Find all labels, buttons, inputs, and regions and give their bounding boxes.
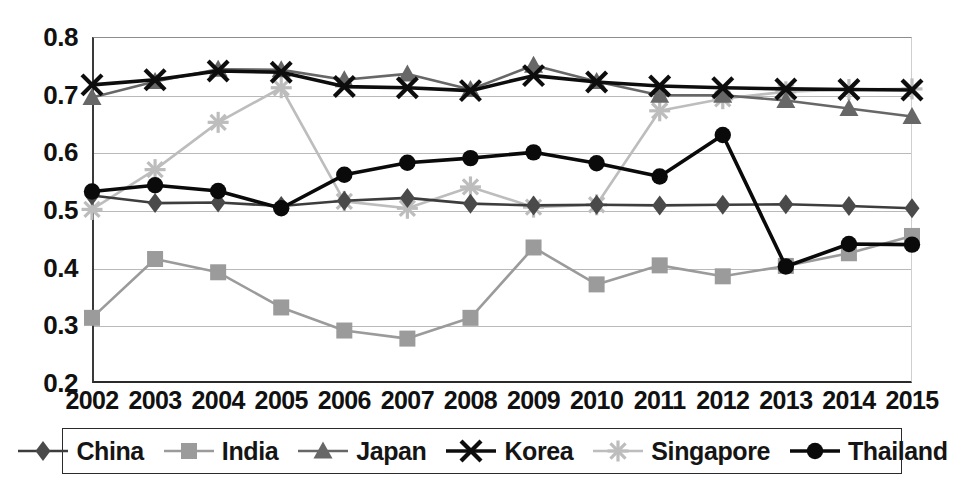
data-point-square-marker bbox=[147, 251, 163, 267]
x-axis-tick-label: 2004 bbox=[192, 386, 245, 415]
y-axis-tick-label: 0.6 bbox=[43, 137, 78, 168]
legend-item-singapore[interactable]: Singapore bbox=[582, 437, 779, 466]
data-point-asterisk-marker bbox=[208, 112, 229, 133]
legend-marker-asterisk-icon bbox=[591, 438, 645, 464]
legend-label: Thailand bbox=[848, 437, 948, 466]
data-point-square-marker bbox=[210, 264, 226, 280]
data-point-diamond-marker bbox=[778, 194, 793, 214]
series-singapore bbox=[82, 77, 923, 220]
legend-marker-cross-icon bbox=[444, 438, 498, 464]
x-axis-tick-label: 2013 bbox=[759, 386, 812, 415]
data-point-circle-marker bbox=[84, 183, 100, 199]
legend-label: Korea bbox=[504, 437, 573, 466]
legend-marker-diamond-icon bbox=[16, 438, 70, 464]
data-point-circle-marker bbox=[399, 155, 415, 171]
data-point-circle-marker bbox=[147, 177, 163, 193]
data-point-diamond-marker bbox=[715, 195, 730, 215]
series-india bbox=[84, 228, 920, 347]
x-axis-tick-labels: 2002200320042005200620072008200920102011… bbox=[0, 386, 962, 420]
data-point-asterisk-marker bbox=[608, 441, 629, 462]
data-point-circle-marker bbox=[588, 155, 604, 171]
data-point-diamond-marker bbox=[841, 196, 856, 216]
data-point-circle-marker bbox=[462, 150, 478, 166]
data-point-square-marker bbox=[336, 323, 352, 339]
data-point-square-marker bbox=[715, 268, 731, 284]
y-axis-tick-labels: 0.80.70.60.50.40.30.2 bbox=[0, 0, 86, 420]
x-axis-tick-label: 2011 bbox=[634, 386, 686, 415]
x-axis-tick-label: 2003 bbox=[128, 386, 181, 415]
y-axis-tick-label: 0.7 bbox=[43, 79, 78, 110]
series-layer bbox=[92, 37, 912, 383]
series-line bbox=[92, 236, 912, 339]
data-point-asterisk-marker bbox=[649, 100, 670, 121]
data-point-diamond-marker bbox=[652, 195, 667, 215]
legend-item-korea[interactable]: Korea bbox=[435, 437, 582, 466]
x-axis-tick-label: 2010 bbox=[570, 386, 623, 415]
data-point-asterisk-marker bbox=[145, 159, 166, 180]
series-korea bbox=[82, 61, 922, 101]
y-axis-tick-label: 0.8 bbox=[43, 22, 78, 53]
legend-label: Japan bbox=[356, 437, 426, 466]
x-axis-tick-label: 2005 bbox=[255, 386, 308, 415]
data-point-diamond-marker bbox=[905, 198, 920, 218]
legend-item-china[interactable]: China bbox=[7, 437, 152, 466]
data-point-circle-marker bbox=[778, 258, 794, 274]
data-point-diamond-marker bbox=[36, 441, 51, 461]
data-point-diamond-marker bbox=[148, 193, 163, 213]
chart-legend: ChinaIndiaJapanKoreaSingaporeThailand bbox=[62, 428, 902, 474]
legend-label: China bbox=[76, 437, 143, 466]
data-point-square-marker bbox=[399, 331, 415, 347]
legend-marker-circle-icon bbox=[788, 438, 842, 464]
data-point-circle-marker bbox=[336, 167, 352, 183]
legend-marker-triangle-icon bbox=[296, 438, 350, 464]
data-point-circle-marker bbox=[651, 168, 667, 184]
x-axis-tick-label: 2007 bbox=[381, 386, 434, 415]
data-point-square-marker bbox=[181, 443, 197, 459]
data-point-circle-marker bbox=[525, 144, 541, 160]
series-thailand bbox=[84, 127, 920, 275]
x-axis-tick-label: 2008 bbox=[444, 386, 497, 415]
data-point-square-marker bbox=[462, 310, 478, 326]
data-point-square-marker bbox=[526, 239, 542, 255]
legend-marker-square-icon bbox=[162, 438, 216, 464]
legend-label: Singapore bbox=[651, 437, 770, 466]
data-point-square-marker bbox=[273, 299, 289, 315]
data-point-circle-marker bbox=[715, 127, 731, 143]
data-point-circle-marker bbox=[210, 183, 226, 199]
data-point-circle-marker bbox=[807, 443, 823, 459]
data-point-diamond-marker bbox=[463, 194, 478, 214]
data-point-square-marker bbox=[84, 310, 100, 326]
y-axis-tick-label: 0.3 bbox=[43, 310, 78, 341]
x-axis-tick-label: 2012 bbox=[696, 386, 749, 415]
plot-wrapper: 0.80.70.60.50.40.30.2 200220032004200520… bbox=[0, 0, 962, 420]
line-chart: 0.80.70.60.50.40.30.2 200220032004200520… bbox=[0, 0, 962, 501]
data-point-circle-marker bbox=[904, 236, 920, 252]
x-axis-tick-label: 2009 bbox=[507, 386, 560, 415]
x-axis-tick-label: 2002 bbox=[65, 386, 118, 415]
legend-item-japan[interactable]: Japan bbox=[287, 437, 435, 466]
y-axis-tick-label: 0.4 bbox=[43, 252, 78, 283]
x-axis-tick-label: 2014 bbox=[822, 386, 875, 415]
legend-item-thailand[interactable]: Thailand bbox=[779, 437, 957, 466]
data-point-circle-marker bbox=[841, 236, 857, 252]
legend-item-india[interactable]: India bbox=[153, 437, 287, 466]
y-axis-tick-label: 0.5 bbox=[43, 195, 78, 226]
data-point-square-marker bbox=[589, 276, 605, 292]
data-point-circle-marker bbox=[273, 200, 289, 216]
data-point-square-marker bbox=[652, 257, 668, 273]
legend-label: India bbox=[222, 437, 278, 466]
x-axis-tick-label: 2015 bbox=[885, 386, 938, 415]
x-axis-tick-label: 2006 bbox=[318, 386, 371, 415]
